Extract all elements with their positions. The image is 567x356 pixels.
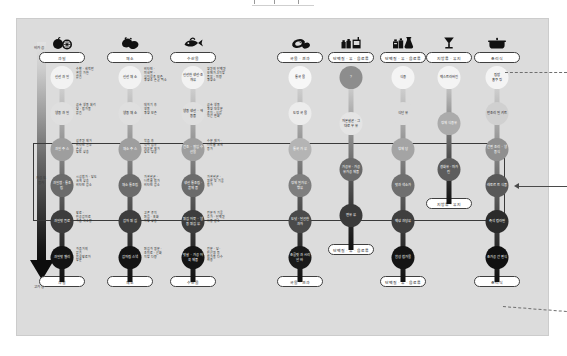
- node-cooked-0[interactable]: 집밥 홈쿠킹: [486, 66, 509, 89]
- node-chain-vegetable: 신선 채소비타민 · 미네랄 · 식이섬유 보존 영양소 손실 최소냉동 채소데…: [102, 66, 158, 282]
- fruit-icon: [34, 30, 90, 50]
- node-beverage-0[interactable]: 엑스트라버진: [438, 66, 461, 89]
- node-row: 채소 통조림가열살균 · 나트륨 첨가 비타민 감소: [102, 174, 158, 210]
- node-fish-4[interactable]: 튀김 어묵 · 냉동 튀김류: [182, 210, 205, 233]
- node-fruit-0[interactable]: 신선 과일: [51, 66, 74, 89]
- node-row: 맛살 · 가공 어육 제품전분 · 당 · 인산염 등 첨가물 다수 사용: [165, 246, 221, 282]
- column-cooked: 조리식집밥 홈쿠킹반조리 밀키트간편 조리 · 냉동식레토르트 식품즉석 컵라면…: [469, 30, 525, 287]
- node-row: 초가공 간편식: [469, 246, 525, 282]
- node-vegetable-2[interactable]: 채소 주스: [119, 138, 142, 161]
- strip-tick: [274, 0, 275, 4]
- node-row: 과일맛 음료향료 · 인공감미료 과즙 극소량: [34, 210, 90, 246]
- column-grain: 곡물 · 견과통곡물도정 곡물통곡 가루정제 밀가루 · 빵류도넛 · 달콤한 …: [272, 30, 328, 287]
- node-row: 생선 통조림 · 훈제품가열살균 · 염분 및 기름 첨가: [165, 174, 221, 210]
- node-row: 합성 첨가물: [375, 246, 431, 282]
- column-top-label-dairy[interactable]: 단백질 · 유 · 음료류: [328, 52, 374, 63]
- column-top-label-supplement[interactable]: 단백질 · 유 · 음료류: [380, 52, 426, 63]
- node-supplement-1[interactable]: 식단유: [392, 102, 415, 125]
- node-beverage-1[interactable]: 정제 식용유: [438, 112, 461, 135]
- column-top-label-fruit[interactable]: 과일: [39, 52, 85, 63]
- node-fish-1[interactable]: 냉동 생선 · 해동품: [182, 102, 205, 125]
- node-row: 신선 과일수확 · 세척만 열을 가한 없음: [34, 66, 90, 102]
- node-row: 냉동 채소데치기 후 냉동 영양 보존: [102, 102, 158, 138]
- node-supplement-5[interactable]: 합성 첨가물: [392, 246, 415, 269]
- node-row: 신선 채소비타민 · 미네랄 · 식이섬유 보존 영양소 손실 최소: [102, 66, 158, 102]
- node-grain-1[interactable]: 도정 곡물: [289, 102, 312, 125]
- column-fish: 수산물신선한 생선·조개류양질의 단백질 오메가-3 지방 풍부 · 미량 영양…: [165, 30, 221, 287]
- node-chain-fish: 신선한 생선·조개류양질의 단백질 오메가-3 지방 풍부 · 미량 영양소냉동…: [165, 66, 221, 282]
- column-top-label-fish[interactable]: 수산물: [170, 52, 216, 63]
- column-fruit: 과일신선 과일수확 · 세척만 열을 가한 없음냉동 과일급속 냉동 처리 당 …: [34, 30, 90, 287]
- node-fish-3[interactable]: 생선 통조림 · 훈제품: [182, 174, 205, 197]
- strip-tick: [298, 0, 299, 4]
- node-vegetable-5[interactable]: 감자칩 스낵: [119, 246, 142, 269]
- column-top-label-grain[interactable]: 곡물 · 견과: [277, 52, 323, 63]
- node-row: 간편 조리 · 냉동식: [469, 138, 525, 174]
- node-grain-3[interactable]: 정제 밀가루 · 빵류: [289, 174, 312, 197]
- cooked-icon: [469, 30, 525, 50]
- node-cooked-3[interactable]: 레토르트 식품: [486, 174, 509, 197]
- node-grain-0[interactable]: 통곡물: [289, 66, 312, 89]
- node-beverage-2[interactable]: 경화유 · 마가린: [438, 158, 461, 181]
- node-cooked-1[interactable]: 반조리 밀키트: [486, 102, 509, 125]
- column-top-label-cooked[interactable]: 조리식: [474, 52, 520, 63]
- node-supplement-2[interactable]: 정제당: [392, 138, 415, 161]
- node-row: 과일 주스섬유질 제거 비타민 일부 손실 당도 상승: [34, 138, 90, 174]
- fish-icon: [165, 30, 221, 50]
- node-cooked-2[interactable]: 간편 조리 · 냉동식: [486, 138, 509, 161]
- column-vegetable: 채소신선 채소비타민 · 미네랄 · 식이섬유 보존 영양소 손실 최소냉동 채…: [102, 30, 158, 287]
- node-note-fish-3: 가열살균 · 염분 및 기름 첨가: [207, 176, 237, 187]
- node-dairy-0[interactable]: ?: [340, 66, 363, 89]
- node-vegetable-4[interactable]: 감자 튀김: [119, 210, 142, 233]
- node-fruit-1[interactable]: 냉동 과일: [51, 102, 74, 125]
- node-row: 냉동 과일급속 냉동 처리 당 · 첨가물 없음: [34, 102, 90, 138]
- node-row: 연유류: [323, 204, 379, 250]
- node-cooked-5[interactable]: 초가공 간편식: [486, 246, 509, 269]
- node-fruit-4[interactable]: 과일맛 음료: [51, 210, 74, 233]
- node-vegetable-0[interactable]: 신선 채소: [119, 66, 142, 89]
- node-vegetable-1[interactable]: 냉동 채소: [119, 102, 142, 125]
- grain-icon: [272, 30, 328, 50]
- node-row: 감자칩 스낵튀김과 염분 · 조미료 · 산화 지방 다량: [102, 246, 158, 282]
- node-supplement-4[interactable]: 액상 과당류: [392, 210, 415, 233]
- node-row: 레토르트 식품: [469, 174, 525, 210]
- node-row: 도넛 · 달콤한 과자: [272, 210, 328, 246]
- node-row: 정제 밀가루 · 빵류: [272, 174, 328, 210]
- node-vegetable-3[interactable]: 채소 통조림: [119, 174, 142, 197]
- node-fish-5[interactable]: 맛살 · 가공 어육 제품: [182, 246, 205, 269]
- node-supplement-3[interactable]: 맛과 색소가: [392, 174, 415, 197]
- node-grain-4[interactable]: 도넛 · 달콤한 과자: [289, 210, 312, 233]
- node-fruit-3[interactable]: 과일잼 · 통조림: [51, 174, 74, 197]
- callout-top-dashed: [505, 72, 567, 73]
- node-fruit-5[interactable]: 과일맛 젤리: [51, 246, 74, 269]
- node-fish-2[interactable]: 건조 · 절임 수산물: [182, 138, 205, 161]
- node-fruit-2[interactable]: 과일 주스: [51, 138, 74, 161]
- node-row: 저온살균 · 그대로 우유: [323, 112, 379, 158]
- node-row: 통곡 가루: [272, 138, 328, 174]
- node-row: 즉석 컵라면: [469, 210, 525, 246]
- strip-rule: [252, 5, 314, 6]
- node-supplement-0[interactable]: 식용: [392, 66, 415, 89]
- node-cooked-4[interactable]: 즉석 컵라면: [486, 210, 509, 233]
- node-row: 도정 곡물: [272, 102, 328, 138]
- node-dairy-1[interactable]: 저온살균 · 그대로 우유: [340, 112, 363, 135]
- node-row: 과일맛 젤리과즙거의 없음 합성향료와 당분: [34, 246, 90, 282]
- node-row: 감자 튀김고온 유지 튀김 · 포화 지방 상승: [102, 210, 158, 246]
- node-row: 액상 과당류: [375, 210, 431, 246]
- vegetable-icon: [102, 30, 158, 50]
- node-grain-2[interactable]: 통곡 가루: [289, 138, 312, 161]
- node-dairy-3[interactable]: 연유류: [340, 204, 363, 227]
- node-note-fish-4: 전분과 기름 추가 · 단백질 비중 감소: [207, 212, 237, 223]
- node-fish-0[interactable]: 신선한 생선·조개류: [182, 66, 205, 89]
- node-dairy-2[interactable]: 가공유 · 가공 유가공 제품: [340, 158, 363, 181]
- dairy-icon: [323, 30, 379, 50]
- column-top-label-vegetable[interactable]: 채소: [107, 52, 153, 63]
- node-row: ?: [323, 66, 379, 112]
- node-row: 가공유 · 가공 유가공 제품: [323, 158, 379, 204]
- node-row: 건조 · 절임 수산물수분 제거 · 나트륨 크게 증가: [165, 138, 221, 174]
- callout-middle-arrowhead: [514, 183, 519, 189]
- column-top-label-beverage[interactable]: 지방류 · 유지: [426, 52, 472, 63]
- node-note-fish-5: 전분 · 당 · 인산염 등 첨가물 다수 사용: [207, 248, 237, 263]
- node-row: 과일잼 · 통조림시럽첨가 · 당도 크게 상승 비타민 감소: [34, 174, 90, 210]
- node-grain-5[interactable]: 초콜릿과 시리얼 바: [289, 246, 312, 269]
